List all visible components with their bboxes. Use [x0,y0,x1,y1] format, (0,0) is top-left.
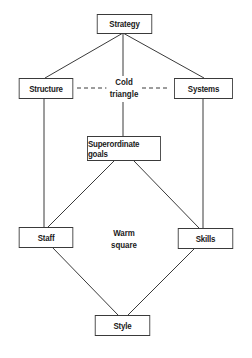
edge-skills-style [128,248,195,315]
node-skills: Skills [178,228,233,249]
connector-lines [0,0,252,358]
node-systems: Systems [174,78,233,99]
cold-line1: Cold [106,76,141,88]
node-systems-label: Systems [188,84,219,94]
edge-superordinate-skills [134,161,199,228]
node-style: Style [95,315,150,336]
node-style-label: Style [113,321,131,331]
node-staff: Staff [19,227,74,248]
warm-line1: Warm [106,227,141,239]
node-superordinate-goals-label: Superordinate goals [88,139,160,159]
node-superordinate-goals: Superordinate goals [87,136,161,161]
node-structure: Structure [19,78,74,99]
edge-staff-style [52,247,118,315]
edge-strategy-structure [45,33,123,78]
cold-triangle-label: Cold triangle [106,76,141,102]
cold-line2: triangle [106,88,141,100]
warm-line2: square [106,239,141,251]
node-skills-label: Skills [196,234,216,244]
node-staff-label: Staff [38,233,55,243]
node-strategy-label: Strategy [109,19,139,29]
warm-square-label: Warm square [106,227,141,253]
node-strategy: Strategy [97,14,152,34]
node-structure-label: Structure [29,84,63,94]
edge-superordinate-staff [48,161,114,227]
edge-strategy-systems [123,33,204,78]
